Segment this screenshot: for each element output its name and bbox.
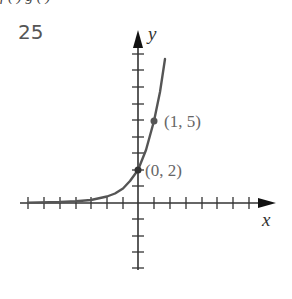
point-label-1-5: (1, 5)	[164, 112, 201, 131]
point-0-2	[135, 167, 142, 174]
point-label-0-2: (0, 2)	[145, 161, 182, 180]
y-axis-label: y	[146, 23, 157, 44]
y-axis	[132, 30, 144, 270]
exponential-curve	[28, 59, 165, 203]
x-axis-label: x	[261, 209, 271, 230]
point-1-5	[151, 118, 158, 125]
exponential-graph: x y (0, 2) (1, 5)	[0, 0, 292, 299]
